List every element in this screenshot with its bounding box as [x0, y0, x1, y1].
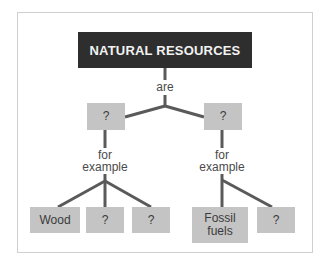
example-node-unknown-3: ?	[257, 207, 295, 233]
category-node-left: ?	[87, 103, 125, 130]
example-node-fossil-fuels: Fossil fuels	[192, 207, 248, 243]
category-node-right: ?	[204, 103, 242, 130]
link-label-are: are	[150, 81, 180, 93]
example-node-unknown-1: ?	[86, 207, 124, 233]
example-node-wood: Wood	[30, 207, 80, 233]
root-node-natural-resources: NATURAL RESOURCES	[78, 32, 252, 68]
link-label-for-example-right: for example	[197, 149, 247, 173]
root-node-label: NATURAL RESOURCES	[90, 43, 241, 58]
link-label-for-example-left: for example	[80, 149, 130, 173]
example-node-unknown-2: ?	[132, 207, 170, 233]
